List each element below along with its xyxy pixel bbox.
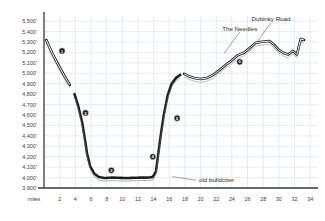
y-axis-tick-label: 4,300' (22, 143, 37, 149)
x-axis-tick-label: 30 (276, 196, 282, 202)
y-axis-tick-label: 5,300' (22, 39, 37, 45)
x-axis-tick-label: 20 (198, 196, 204, 202)
annotation-label: old bulldozer (199, 176, 234, 183)
x-axis-tick-label: 26 (245, 196, 251, 202)
y-axis-tick-label: 5,000' (22, 70, 37, 76)
x-axis-tick-label: 24 (229, 196, 235, 202)
y-axis-tick-label: 4,100' (22, 164, 37, 170)
waypoint-marker[interactable]: 4 (150, 154, 156, 160)
x-axis-unit-label: miles (28, 196, 41, 202)
y-axis-tick-label: 4,800' (22, 91, 37, 97)
x-axis-tick-label: 8 (105, 196, 108, 202)
waypoint-marker[interactable]: 5 (174, 115, 180, 121)
x-axis-tick-label: 6 (89, 196, 92, 202)
waypoint-marker[interactable]: 3 (108, 167, 114, 173)
y-axis-tick-label: 5,100' (22, 60, 37, 66)
y-axis-tick-label: 4,700' (22, 102, 37, 108)
y-axis-tick-label: 5,200' (22, 49, 37, 55)
x-axis-tick-label: 22 (213, 196, 219, 202)
x-axis-tick-label: 4 (74, 196, 77, 202)
x-axis-tick-label: 16 (166, 196, 172, 202)
annotation-label: Dubinky Road (252, 15, 291, 22)
y-axis-tick-label: 4,600' (22, 112, 37, 118)
annotation-label: The Needles (222, 25, 257, 32)
y-axis-tick-label: 4,000' (22, 175, 37, 181)
x-axis-tick-label: 14 (151, 196, 157, 202)
x-axis-tick-label: 32 (292, 196, 298, 202)
x-axis-tick-label: 18 (182, 196, 188, 202)
x-axis-tick-label: 12 (135, 196, 141, 202)
y-axis-tick-label: 4,200' (22, 154, 37, 160)
x-axis-tick-label: 2 (58, 196, 61, 202)
x-axis-tick-label: 28 (260, 196, 266, 202)
y-axis-tick-label: 4,500' (22, 122, 37, 128)
y-axis-tick-label: 5,400' (22, 29, 37, 35)
y-axis-tick-label: 4,400' (22, 133, 37, 139)
chart-canvas: 3,900'4,000'4,100'4,200'4,300'4,400'4,50… (0, 0, 325, 221)
elevation-profile-chart: 3,900'4,000'4,100'4,200'4,300'4,400'4,50… (0, 0, 325, 221)
y-axis-tick-label: 5,500' (22, 18, 37, 24)
x-axis-tick-label: 10 (119, 196, 125, 202)
waypoint-marker[interactable]: 6 (237, 59, 243, 65)
y-axis-tick-label: 3,900' (22, 185, 37, 191)
waypoint-marker[interactable]: 1 (59, 48, 65, 54)
waypoint-marker[interactable]: 2 (82, 110, 88, 116)
y-axis-tick-label: 4,900' (22, 81, 37, 87)
x-axis-tick-label: 34 (307, 196, 313, 202)
y-axis-labels: 3,900'4,000'4,100'4,200'4,300'4,400'4,50… (22, 18, 37, 191)
